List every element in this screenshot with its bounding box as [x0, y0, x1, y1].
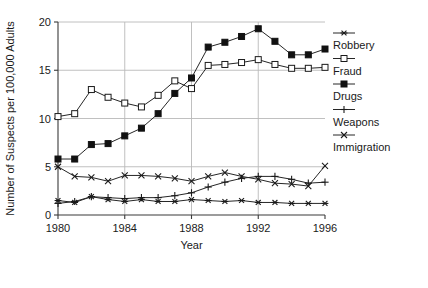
marker-fraud	[222, 61, 228, 67]
marker-robbery	[221, 199, 228, 204]
chart-legend: RobberyFraudDrugsWeaponsImmigration	[333, 31, 390, 153]
marker-fraud	[138, 104, 144, 110]
y-tick-label: 10	[39, 113, 51, 125]
marker-weapons	[155, 194, 162, 201]
legend-label-immigration: Immigration	[333, 141, 390, 153]
line-chart: 0510152019801984198819921996 YearNumber …	[0, 0, 428, 288]
marker-fraud	[322, 64, 328, 70]
y-axis-title: Number of Suspects per 100,000 Adults	[4, 21, 16, 216]
legend-label-fraud: Fraud	[333, 65, 362, 77]
legend-label-robbery: Robbery	[333, 39, 375, 51]
marker-drugs	[205, 44, 211, 50]
marker-drugs	[322, 46, 328, 52]
marker-drugs	[255, 26, 261, 32]
legend-marker-filled-square	[341, 81, 347, 87]
marker-fraud	[72, 111, 78, 117]
marker-weapons	[205, 183, 212, 190]
marker-drugs	[72, 156, 78, 162]
marker-robbery	[305, 201, 312, 206]
legend-item-immigration[interactable]: Immigration	[333, 132, 390, 153]
x-tick-label: 1984	[113, 222, 137, 234]
marker-fraud	[88, 87, 94, 93]
marker-weapons	[271, 173, 278, 180]
marker-fraud	[239, 60, 245, 66]
marker-immigration	[322, 163, 328, 169]
marker-robbery	[238, 198, 245, 203]
x-axis-title: Year	[180, 239, 203, 251]
marker-robbery	[288, 201, 295, 206]
grid-lines	[58, 22, 325, 215]
x-tick-label: 1996	[313, 222, 337, 234]
legend-label-drugs: Drugs	[333, 90, 363, 102]
legend-item-drugs[interactable]: Drugs	[333, 81, 363, 102]
marker-weapons	[188, 189, 195, 196]
marker-drugs	[138, 125, 144, 131]
axis-ticks: 0510152019801984198819921996	[39, 16, 337, 234]
marker-fraud	[55, 114, 61, 120]
legend-item-robbery[interactable]: Robbery	[333, 31, 375, 51]
marker-weapons	[321, 179, 328, 186]
y-tick-label: 0	[45, 209, 51, 221]
marker-drugs	[239, 33, 245, 39]
marker-drugs	[305, 52, 311, 58]
marker-robbery	[272, 200, 279, 205]
y-tick-label: 5	[45, 161, 51, 173]
legend-label-weapons: Weapons	[333, 116, 380, 128]
marker-drugs	[155, 111, 161, 117]
axis-labels: YearNumber of Suspects per 100,000 Adult…	[4, 21, 203, 251]
marker-fraud	[255, 57, 261, 63]
marker-drugs	[55, 156, 61, 162]
marker-drugs	[105, 141, 111, 147]
marker-fraud	[155, 92, 161, 98]
chart-figure: 0510152019801984198819921996 YearNumber …	[0, 0, 428, 288]
marker-drugs	[88, 142, 94, 148]
legend-item-fraud[interactable]: Fraud	[333, 56, 362, 77]
marker-drugs	[122, 133, 128, 139]
legend-item-weapons[interactable]: Weapons	[333, 106, 380, 128]
marker-fraud	[272, 61, 278, 67]
legend-marker-open-square	[341, 56, 347, 62]
marker-drugs	[172, 90, 178, 96]
marker-robbery	[171, 199, 178, 204]
marker-fraud	[172, 78, 178, 84]
x-tick-label: 1988	[179, 222, 203, 234]
marker-weapons	[221, 179, 228, 186]
marker-robbery	[322, 201, 329, 206]
marker-drugs	[189, 75, 195, 81]
marker-drugs	[222, 39, 228, 45]
x-tick-label: 1992	[246, 222, 270, 234]
marker-fraud	[122, 100, 128, 106]
marker-fraud	[305, 65, 311, 71]
legend-marker-asterisk	[341, 31, 348, 36]
y-tick-label: 20	[39, 16, 51, 28]
marker-fraud	[289, 65, 295, 71]
marker-drugs	[289, 52, 295, 58]
marker-weapons	[71, 198, 78, 205]
marker-weapons	[171, 192, 178, 199]
x-tick-label: 1980	[46, 222, 70, 234]
y-tick-label: 15	[39, 64, 51, 76]
marker-fraud	[205, 62, 211, 68]
marker-fraud	[105, 94, 111, 100]
marker-weapons	[88, 193, 95, 200]
marker-robbery	[205, 198, 212, 203]
marker-drugs	[272, 38, 278, 44]
marker-fraud	[189, 86, 195, 92]
legend-marker-plus	[340, 106, 347, 113]
